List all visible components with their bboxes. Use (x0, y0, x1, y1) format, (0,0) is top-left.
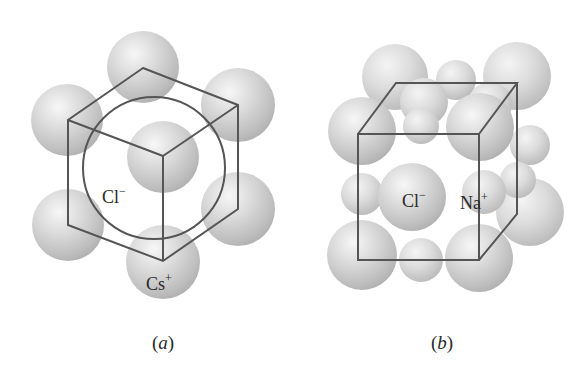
sphere (341, 173, 383, 215)
sphere (328, 97, 396, 165)
panel-b-caption: (b) (431, 332, 453, 354)
panel-a-caption: (a) (152, 332, 174, 354)
crystal-structure-figure: Cl− Cs+ (a) (0, 0, 579, 378)
ion-spheres-packed (327, 42, 564, 292)
panel-b-nacl-unit-cell: Cl− Na+ (b) (327, 42, 564, 354)
sphere (327, 220, 397, 290)
sphere (403, 108, 439, 144)
anion-label-cl: Cl− (102, 184, 126, 207)
panel-a-cscl-unit-cell: Cl− Cs+ (a) (31, 31, 275, 354)
